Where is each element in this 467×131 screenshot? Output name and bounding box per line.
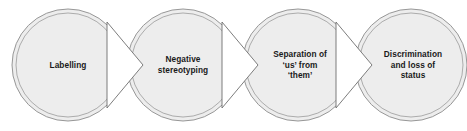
stage-2-inner-ring: [131, 13, 235, 117]
stage-1-inner-ring: [16, 13, 120, 117]
stigma-process-diagram: Labelling Negative stereotyping Separati…: [0, 0, 467, 131]
flow-diagram-canvas: [0, 0, 467, 131]
stage-3-inner-ring: [246, 13, 350, 117]
stage-4-inner-ring: [359, 13, 463, 117]
